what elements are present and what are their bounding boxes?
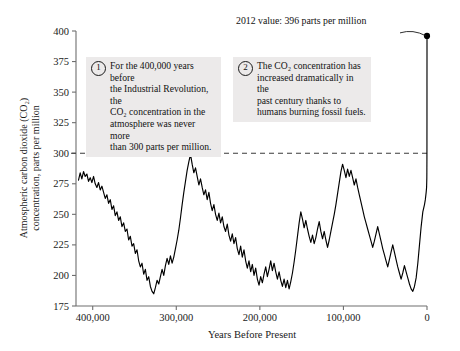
x-tick-label: 400,000 [76,312,110,323]
value-note-2012: 2012 value: 396 parts per million [236,15,366,27]
chart-canvas: 175200225250275300325350375400 400,00030… [0,0,460,351]
callout-1-text: For the 400,000 years before the Industr… [110,60,216,153]
y-tick-label: 275 [53,178,69,189]
y-tick-label: 375 [53,56,69,67]
y-axis-ticks [72,31,76,306]
x-axis-tick-labels: 400,000300,000200,000100,0000 [76,312,430,323]
co2-chart-figure: 175200225250275300325350375400 400,00030… [0,0,460,351]
leader-line-2012 [400,31,426,35]
y-tick-label: 300 [53,148,69,159]
callout-2-badge: 2 [238,61,253,76]
value-note-text: 2012 value: 396 parts per million [236,15,366,26]
callout-1-badge: 1 [91,61,106,76]
y-axis-title-line2: concentration, parts per million [30,105,41,231]
y-axis-title-line1: Atmospheric carbon dioxide (CO₂) [18,98,30,238]
y-tick-label: 400 [53,26,69,37]
callout-annotation-1: 1 For the 400,000 years before the Indus… [86,57,221,157]
x-tick-label: 100,000 [326,312,360,323]
x-axis-title: Years Before Present [208,329,296,340]
callout-annotation-2: 2 The CO₂ concentration has increased dr… [233,57,371,122]
y-tick-label: 325 [53,117,69,128]
y-tick-label: 200 [53,270,69,281]
y-tick-label: 250 [53,209,69,220]
x-tick-label: 0 [424,312,429,323]
x-axis-ticks [93,306,427,310]
y-tick-label: 175 [53,301,69,312]
x-tick-label: 200,000 [243,312,277,323]
y-tick-label: 225 [53,239,69,250]
y-tick-label: 350 [53,87,69,98]
x-tick-label: 300,000 [159,312,193,323]
marker-point-2012 [424,33,430,39]
y-axis-tick-labels: 175200225250275300325350375400 [53,26,69,312]
callout-2-text: The CO₂ concentration has increased dram… [257,60,366,118]
